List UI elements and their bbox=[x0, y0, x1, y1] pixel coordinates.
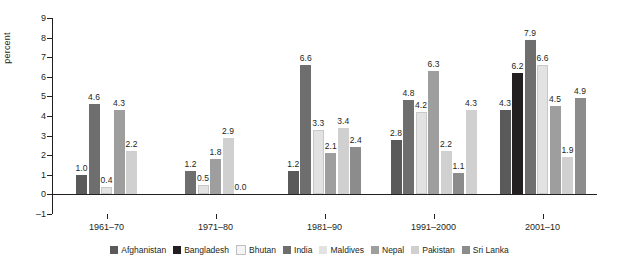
bar-value-label: 6.6 bbox=[300, 53, 312, 63]
bar-value-label: 1.1 bbox=[453, 161, 465, 171]
y-tick-mark bbox=[47, 155, 52, 156]
bar-value-label: 4.8 bbox=[403, 88, 415, 98]
legend-label: Nepal bbox=[382, 245, 404, 255]
bar bbox=[416, 112, 427, 194]
bar-value-label: 4.3 bbox=[113, 98, 125, 108]
x-tick-mark bbox=[434, 214, 435, 219]
y-tick-mark bbox=[47, 96, 52, 97]
bar bbox=[500, 110, 511, 194]
legend-label: Pakistan bbox=[422, 245, 455, 255]
bar bbox=[428, 71, 439, 194]
legend-item: Afghanistan bbox=[110, 245, 166, 255]
bar-value-label: 6.6 bbox=[537, 53, 549, 63]
bar bbox=[525, 40, 536, 195]
y-tick-mark bbox=[47, 38, 52, 39]
legend-item: Nepal bbox=[371, 245, 404, 255]
bar bbox=[350, 147, 361, 194]
bar-value-label: 0.5 bbox=[197, 173, 209, 183]
bar-value-label: 4.9 bbox=[574, 86, 586, 96]
bar-value-label: 7.9 bbox=[524, 28, 536, 38]
bar-value-label: 4.3 bbox=[499, 98, 511, 108]
x-tick-label: 1971–80 bbox=[198, 222, 233, 232]
bar-value-label: 4.3 bbox=[465, 98, 477, 108]
bar bbox=[403, 100, 414, 194]
bar bbox=[325, 153, 336, 194]
y-tick-label: 9 bbox=[30, 13, 46, 23]
legend-item: Bangladesh bbox=[173, 245, 229, 255]
legend-label: Bhutan bbox=[249, 245, 276, 255]
bar bbox=[441, 151, 452, 194]
legend-swatch bbox=[371, 246, 379, 254]
bar bbox=[89, 104, 100, 194]
bar-value-label: 4.2 bbox=[415, 100, 427, 110]
legend-swatch bbox=[411, 246, 419, 254]
bar bbox=[512, 73, 523, 195]
bar bbox=[562, 157, 573, 194]
bar bbox=[101, 187, 112, 195]
bar bbox=[223, 138, 234, 195]
bar-value-label: 6.2 bbox=[512, 61, 524, 71]
x-tick-label: 1961–70 bbox=[89, 222, 124, 232]
legend-swatch bbox=[283, 246, 291, 254]
legend-swatch bbox=[110, 246, 118, 254]
legend-item: Bhutan bbox=[236, 245, 276, 255]
bar-value-label: 0.4 bbox=[101, 175, 113, 185]
legend-item: Maldives bbox=[319, 245, 364, 255]
y-tick-label: 6 bbox=[30, 72, 46, 82]
y-tick-label: 4 bbox=[30, 111, 46, 121]
bar-value-label: 0.0 bbox=[235, 182, 247, 192]
bar bbox=[537, 65, 548, 194]
bar bbox=[76, 175, 87, 195]
bar-value-label: 1.0 bbox=[76, 163, 88, 173]
x-tick-mark bbox=[107, 214, 108, 219]
bar-value-label: 1.2 bbox=[185, 159, 197, 169]
bar-value-label: 2.8 bbox=[390, 128, 402, 138]
bar-value-label: 4.5 bbox=[549, 94, 561, 104]
bar-value-label: 2.1 bbox=[325, 141, 337, 151]
y-tick-mark bbox=[47, 18, 52, 19]
legend-label: Maldives bbox=[330, 245, 364, 255]
y-axis-line bbox=[52, 18, 53, 214]
bar-value-label: 6.3 bbox=[428, 59, 440, 69]
x-tick-mark bbox=[543, 214, 544, 219]
legend-label: India bbox=[294, 245, 312, 255]
bar-value-label: 2.2 bbox=[126, 139, 138, 149]
bar bbox=[126, 151, 137, 194]
bar-value-label: 2.2 bbox=[440, 139, 452, 149]
y-tick-label: 8 bbox=[30, 33, 46, 43]
y-tick-mark bbox=[47, 194, 52, 195]
bar-value-label: 3.4 bbox=[337, 116, 349, 126]
bar-value-label: 4.6 bbox=[88, 92, 100, 102]
bar bbox=[338, 128, 349, 195]
bar bbox=[210, 159, 221, 194]
y-tick-label: 3 bbox=[30, 131, 46, 141]
x-tick-label: 1991–2000 bbox=[411, 222, 456, 232]
legend-label: Bangladesh bbox=[184, 245, 229, 255]
y-tick-mark bbox=[47, 77, 52, 78]
y-tick-mark bbox=[47, 136, 52, 137]
y-tick-label: 7 bbox=[30, 52, 46, 62]
bar bbox=[550, 106, 561, 194]
y-tick-label: 2 bbox=[30, 150, 46, 160]
y-tick-mark bbox=[47, 57, 52, 58]
bar-value-label: 3.3 bbox=[312, 118, 324, 128]
y-tick-mark bbox=[47, 175, 52, 176]
bar bbox=[466, 110, 477, 194]
bar bbox=[313, 130, 324, 195]
bar bbox=[198, 185, 209, 195]
legend-swatch bbox=[319, 246, 327, 254]
legend-label: Afghanistan bbox=[121, 245, 166, 255]
legend-item: India bbox=[283, 245, 312, 255]
bar-value-label: 2.4 bbox=[350, 135, 362, 145]
x-tick-label: 2001–10 bbox=[525, 222, 560, 232]
legend-swatch bbox=[236, 245, 246, 255]
y-tick-label: 5 bbox=[30, 91, 46, 101]
chart-legend: AfghanistanBangladeshBhutanIndiaMaldives… bbox=[0, 245, 619, 255]
bar-value-label: 2.9 bbox=[222, 126, 234, 136]
bar bbox=[453, 173, 464, 195]
legend-item: Pakistan bbox=[411, 245, 455, 255]
legend-swatch bbox=[173, 246, 181, 254]
bar bbox=[575, 98, 586, 194]
y-axis-label: percent bbox=[2, 8, 12, 88]
legend-item: Sri Lanka bbox=[462, 245, 509, 255]
